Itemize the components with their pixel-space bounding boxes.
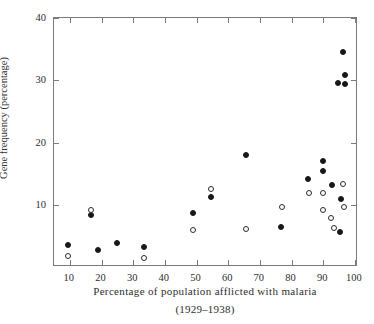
y-axis-tick: [54, 143, 59, 144]
x-axis-tick-label: 30: [127, 272, 138, 283]
data-point-filled: [95, 247, 101, 253]
x-axis-tick-top: [133, 18, 134, 23]
y-axis-title: Gene frequency (percentage): [0, 0, 14, 238]
x-axis-tick-label: 50: [190, 272, 201, 283]
data-point-open: [340, 181, 346, 187]
data-point-filled: [335, 80, 341, 86]
scatter-plot-figure: Gene frequency (percentage) Percentage o…: [0, 0, 374, 324]
x-axis-tick-top: [323, 18, 324, 23]
data-point-filled: [342, 81, 348, 87]
data-point-open: [141, 255, 147, 261]
y-axis-tick: [54, 205, 59, 206]
data-point-filled: [88, 212, 94, 218]
data-point-filled: [278, 224, 284, 230]
x-axis-tick-label: 60: [222, 272, 233, 283]
data-point-filled: [342, 72, 348, 78]
data-point-open: [243, 226, 249, 232]
data-point-filled: [208, 194, 214, 200]
x-axis-tick-top: [197, 18, 198, 23]
x-axis-subtitle: (1929–1938): [53, 303, 357, 315]
y-axis-tick-label: 10: [20, 198, 46, 209]
x-axis-tick: [228, 260, 229, 265]
y-axis-tick-right: [351, 143, 356, 144]
data-point-open: [320, 190, 326, 196]
x-axis-tick-label: 80: [285, 272, 296, 283]
y-axis-tick-right: [351, 205, 356, 206]
x-axis-tick: [165, 260, 166, 265]
y-axis-tick-label: 40: [20, 12, 46, 23]
y-axis-tick: [54, 80, 59, 81]
y-axis-tick-right: [351, 80, 356, 81]
data-point-filled: [337, 229, 343, 235]
x-axis-tick: [102, 260, 103, 265]
data-point-open: [190, 227, 196, 233]
data-point-open: [279, 204, 285, 210]
data-point-filled: [340, 49, 346, 55]
x-axis-tick: [323, 260, 324, 265]
data-point-filled: [320, 158, 326, 164]
y-axis-tick-label: 20: [20, 136, 46, 147]
x-axis-tick-top: [292, 18, 293, 23]
data-point-filled: [141, 244, 147, 250]
x-axis-tick-label: 40: [159, 272, 170, 283]
x-axis-tick: [292, 260, 293, 265]
x-axis-title: Percentage of population afflicted with …: [53, 285, 357, 297]
data-point-open: [88, 207, 94, 213]
data-point-filled: [243, 152, 249, 158]
data-point-open: [65, 253, 71, 259]
plot-area: [53, 17, 357, 266]
data-point-open: [331, 225, 337, 231]
data-point-filled: [338, 196, 344, 202]
data-point-filled: [305, 176, 311, 182]
x-axis-tick-label: 20: [95, 272, 106, 283]
y-axis-tick-label: 30: [20, 74, 46, 85]
data-point-open: [306, 190, 312, 196]
x-axis-tick: [260, 260, 261, 265]
x-axis-tick-top: [165, 18, 166, 23]
x-axis-tick-top: [70, 18, 71, 23]
x-axis-tick-top: [102, 18, 103, 23]
data-point-open: [341, 204, 347, 210]
data-point-filled: [114, 240, 120, 246]
x-axis-tick-label: 100: [346, 272, 362, 283]
y-axis-tick: [54, 18, 59, 19]
x-axis-tick-top: [228, 18, 229, 23]
x-axis-tick: [133, 260, 134, 265]
x-axis-tick: [355, 260, 356, 265]
y-axis-tick-right: [351, 18, 356, 19]
x-axis-tick: [197, 260, 198, 265]
data-point-filled: [190, 210, 196, 216]
x-axis-tick-top: [260, 18, 261, 23]
x-axis-tick-label: 70: [254, 272, 265, 283]
x-axis-tick-label: 10: [64, 272, 75, 283]
data-point-filled: [329, 182, 335, 188]
data-point-open: [320, 207, 326, 213]
data-point-open: [208, 186, 214, 192]
x-axis-tick-label: 90: [317, 272, 328, 283]
x-axis-tick: [70, 260, 71, 265]
data-point-filled: [65, 242, 71, 248]
data-point-filled: [320, 168, 326, 174]
data-point-open: [328, 215, 334, 221]
